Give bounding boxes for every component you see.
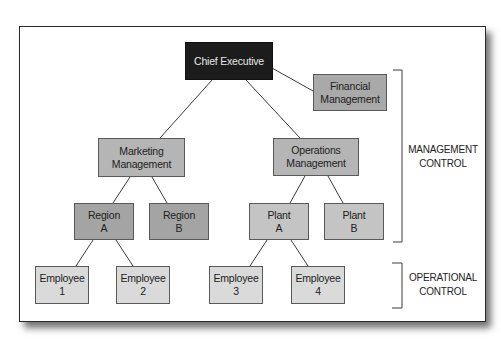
edge-marketing-regionb [152, 177, 167, 203]
node-operations-management: Operations Management [273, 138, 359, 176]
management-bracket [393, 70, 402, 242]
node-label-line1: Plant [268, 209, 291, 222]
node-region-b: Region B [149, 203, 209, 240]
node-chief-executive: Chief Executive [185, 42, 273, 80]
edge-chief-operations [246, 80, 300, 138]
node-label-line2: B [176, 222, 183, 235]
node-label-line1: Employee [39, 272, 84, 285]
edge-operations-plantb [328, 176, 343, 203]
node-region-a: Region A [74, 203, 134, 240]
edge-marketing-regiona [113, 177, 130, 203]
node-marketing-management: Marketing Management [98, 138, 185, 177]
label-line2: CONTROL [406, 285, 480, 299]
edge-planta-emp3 [250, 240, 267, 266]
node-label-line1: Operations [291, 144, 340, 157]
node-label-line1: Region [163, 209, 195, 222]
node-label-line1: Financial [330, 80, 370, 93]
node-label-line1: Employee [295, 272, 340, 285]
node-label-line2: 1 [59, 285, 65, 298]
label-line1: OPERATIONAL [406, 271, 480, 285]
node-label-line1: Region [88, 209, 120, 222]
node-label-line2: A [101, 222, 108, 235]
edge-chief-financial [272, 68, 313, 91]
node-employee-1: Employee 1 [35, 266, 89, 304]
operational-control-label: OPERATIONAL CONTROL [406, 271, 480, 299]
node-plant-b: Plant B [324, 203, 384, 240]
node-label-line2: 3 [233, 285, 239, 298]
node-label-line1: Plant [343, 209, 366, 222]
edge-regiona-emp2 [116, 240, 133, 266]
operational-bracket [392, 263, 402, 308]
node-label-line2: Management [112, 158, 171, 171]
label-line2: CONTROL [406, 157, 480, 171]
edge-planta-emp4 [291, 240, 308, 266]
node-label-line2: 4 [315, 285, 321, 298]
node-employee-4: Employee 4 [291, 266, 345, 304]
node-label-line2: 2 [140, 285, 146, 298]
management-control-label: MANAGEMENT CONTROL [406, 143, 480, 171]
edge-chief-marketing [160, 80, 212, 138]
node-label-line1: Marketing [119, 145, 163, 158]
node-label-line2: Management [286, 157, 345, 170]
node-label: Chief Executive [194, 55, 264, 68]
label-line1: MANAGEMENT [406, 143, 480, 157]
edge-operations-planta [290, 176, 305, 203]
node-employee-3: Employee 3 [209, 266, 263, 304]
node-label-line2: A [276, 222, 283, 235]
node-label-line1: Employee [120, 272, 165, 285]
node-plant-a: Plant A [249, 203, 309, 240]
node-label-line2: B [351, 222, 358, 235]
node-financial-management: Financial Management [313, 74, 387, 111]
node-label-line2: Management [320, 93, 379, 106]
node-employee-2: Employee 2 [116, 266, 170, 304]
edge-regiona-emp1 [76, 240, 93, 266]
node-label-line1: Employee [213, 272, 258, 285]
